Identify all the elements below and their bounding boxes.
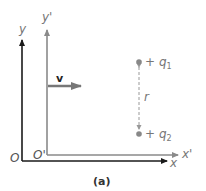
y-prime-axis-label: y' (41, 10, 52, 24)
origin-o-label: O (10, 151, 19, 165)
figure-caption: (a) (93, 175, 110, 188)
y-axis-label: y (18, 22, 27, 36)
charge-q1-label: + q1 (145, 55, 172, 71)
charge-q2-dot (136, 131, 142, 137)
charge-q2-label: + q2 (145, 127, 172, 143)
x-prime-axis-label: x' (181, 147, 192, 161)
x-axis-label: x (169, 156, 178, 170)
charge-q1-dot (136, 59, 142, 65)
origin-o-prime-label: O' (33, 148, 46, 162)
velocity-label: v (56, 72, 64, 85)
relativity-charges-diagram: y x y' x' O O' v r + q1 + q2 (a) (0, 0, 206, 191)
separation-label: r (144, 90, 150, 104)
